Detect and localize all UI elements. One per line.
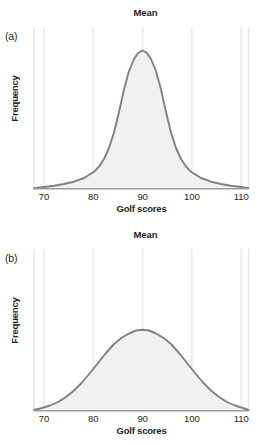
distribution-fill-a: [34, 51, 249, 189]
distribution-svg-b: [33, 249, 250, 412]
x-axis-label-b: Golf scores: [33, 425, 250, 436]
x-tick-70-b: 70: [26, 413, 62, 424]
x-tick-70-a: 70: [26, 191, 62, 202]
panel-label-b: (b): [5, 252, 17, 264]
distribution-fill-b: [34, 330, 249, 411]
y-axis-label-b: Frequency: [9, 286, 20, 356]
chart-panel-a: Mean (a) Frequency 70 80 90: [0, 0, 263, 222]
mean-annotation-a: Mean: [0, 7, 263, 18]
x-axis-label-a: Golf scores: [33, 203, 250, 214]
plot-area-a: [33, 27, 250, 190]
x-tick-80-a: 80: [75, 191, 111, 202]
x-tick-80-b: 80: [75, 413, 111, 424]
x-tick-90-a: 90: [125, 191, 161, 202]
mean-annotation-b: Mean: [0, 229, 263, 240]
y-axis-label-a: Frequency: [9, 64, 20, 134]
x-tick-90-b: 90: [125, 413, 161, 424]
x-tick-100-b: 100: [174, 413, 210, 424]
plot-area-b: [33, 249, 250, 412]
x-tick-100-a: 100: [174, 191, 210, 202]
panel-label-a: (a): [5, 30, 17, 42]
x-tick-110-b: 110: [223, 413, 259, 424]
distribution-svg-a: [33, 27, 250, 190]
x-tick-110-a: 110: [223, 191, 259, 202]
chart-panel-b: Mean (b) Frequency 70 80 90 100 110 Golf: [0, 222, 263, 444]
